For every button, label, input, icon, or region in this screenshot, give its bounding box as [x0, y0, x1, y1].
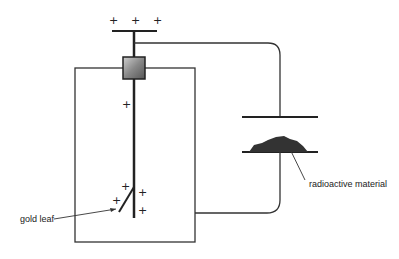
charge-plus: +: [153, 14, 162, 27]
charge-plus: +: [121, 180, 130, 193]
top-charges: + + +: [109, 14, 162, 27]
electroscope-diagram: + + + + + + + + gold leaf radioactive ma…: [0, 0, 399, 259]
wire-top: [134, 43, 280, 117]
radioactive-label: radioactive material: [309, 179, 387, 189]
gold-leaf-label: gold leaf: [20, 214, 55, 224]
gold-leaf-pointer: [54, 209, 116, 219]
charge-plus: +: [131, 14, 140, 27]
charge-plus: +: [138, 204, 147, 217]
wire-bottom: [195, 152, 280, 213]
charge-plus: +: [138, 186, 147, 199]
radioactive-material: [249, 136, 308, 152]
charge-plus: +: [109, 14, 118, 27]
arrowhead-icon: [110, 208, 116, 212]
charge-plus: +: [122, 98, 131, 111]
insulator-block: [123, 57, 145, 79]
charge-plus: +: [112, 194, 121, 207]
